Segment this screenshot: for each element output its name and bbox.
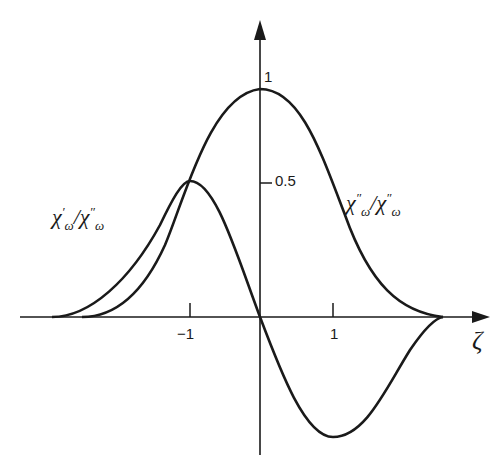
x-axis-label: ζ <box>472 326 483 356</box>
dispersion-label-chi2: χ <box>80 204 90 229</box>
dispersion-label: χ′ω/χ″ω <box>52 204 104 234</box>
dispersion-label-sub2: ω <box>95 218 104 233</box>
absorption-label-sub2: ω <box>392 204 401 219</box>
absorption-label: χ″ω/χ″ω <box>346 190 401 220</box>
x-tick-label-pos1: 1 <box>330 325 338 342</box>
absorption-label-sub: ω <box>361 204 370 219</box>
dispersion-label-chi: χ <box>52 204 62 229</box>
absorption-label-chi: χ <box>346 190 356 215</box>
y-axis-arrow-icon <box>254 20 266 40</box>
y-tick-label-half: 0.5 <box>275 172 296 189</box>
x-axis-arrow-icon <box>472 311 490 323</box>
absorption-label-chi2: χ <box>376 190 386 215</box>
dispersion-label-sub: ω <box>65 218 74 233</box>
y-tick-label-one: 1 <box>264 68 272 85</box>
x-tick-label-neg1: −1 <box>177 325 194 342</box>
